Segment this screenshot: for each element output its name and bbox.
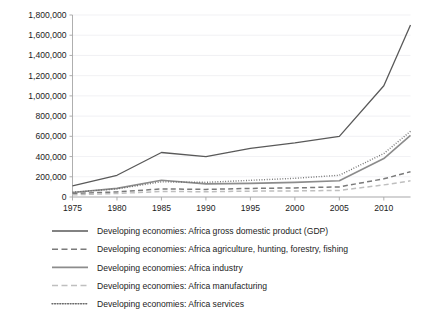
y-tick-label: 200,000 [35, 172, 66, 182]
x-tick-label: 2000 [285, 203, 304, 213]
legend-label-4: Developing economies: Africa manufacturi… [97, 281, 267, 291]
x-tick-label: 1975 [63, 203, 82, 213]
y-tick-label: 1,200,000 [28, 71, 66, 81]
x-tick-label: 2010 [374, 203, 393, 213]
legend-label-3: Developing economies: Africa industry [97, 263, 243, 273]
x-tick-label: 1990 [196, 203, 215, 213]
y-tick-label: 600,000 [35, 131, 66, 141]
legend-label-1: Developing economies: Africa gross domes… [97, 226, 328, 236]
y-tick-label: 1,600,000 [28, 30, 66, 40]
legend-label-5: Developing economies: Africa services [97, 299, 244, 309]
x-tick-label: 2005 [330, 203, 349, 213]
x-tick-label: 1995 [241, 203, 260, 213]
y-tick-label: 800,000 [35, 111, 66, 121]
chart-figure: 0200,000400,000600,000800,0001,000,0001,… [0, 0, 436, 311]
y-tick-label: 400,000 [35, 152, 66, 162]
legend-label-2: Developing economies: Africa agriculture… [97, 244, 348, 254]
y-tick-label: 1,000,000 [28, 91, 66, 101]
y-tick-label: 1,400,000 [28, 50, 66, 60]
y-tick-label: 1,800,000 [28, 10, 66, 20]
y-tick-label: 0 [62, 192, 67, 202]
x-tick-label: 1985 [152, 203, 171, 213]
x-tick-label: 1980 [107, 203, 126, 213]
